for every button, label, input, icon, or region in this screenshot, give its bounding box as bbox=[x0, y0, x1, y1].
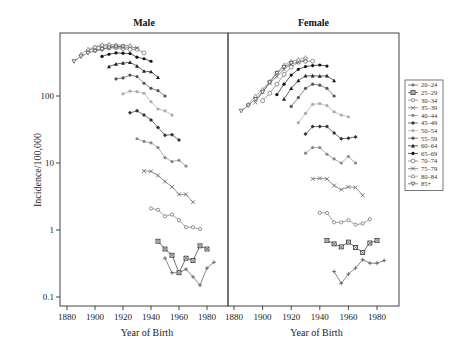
data-point bbox=[135, 90, 138, 93]
data-point bbox=[142, 82, 145, 85]
panel-title: Male bbox=[133, 17, 155, 28]
x-tick-label: 1900 bbox=[254, 312, 273, 322]
data-point bbox=[121, 76, 124, 79]
legend-label: 20–24 bbox=[421, 81, 438, 88]
x-tick-label: 1880 bbox=[225, 312, 244, 322]
panels: Male188019001920194019601980Year of Birt… bbox=[41, 17, 400, 338]
data-point bbox=[86, 51, 90, 55]
data-point bbox=[177, 159, 180, 162]
data-point bbox=[93, 45, 97, 49]
data-point bbox=[325, 238, 329, 242]
y-tick-label: 100 bbox=[41, 91, 55, 101]
series-50-54 bbox=[297, 102, 350, 124]
data-point bbox=[170, 113, 173, 116]
data-point bbox=[149, 141, 152, 144]
data-point bbox=[332, 79, 336, 83]
series-25-29 bbox=[325, 238, 379, 254]
data-point bbox=[191, 226, 194, 229]
data-point bbox=[149, 60, 152, 63]
data-point bbox=[311, 64, 314, 67]
x-tick-label: 1940 bbox=[311, 312, 330, 322]
data-point bbox=[86, 47, 90, 51]
data-point bbox=[156, 239, 160, 243]
data-point bbox=[304, 112, 307, 115]
plot-frame bbox=[228, 33, 399, 306]
data-point bbox=[163, 179, 167, 183]
legend-marker bbox=[411, 91, 415, 95]
y-tick-label: 0.1 bbox=[43, 292, 54, 302]
chart: Male188019001920194019601980Year of Birt… bbox=[0, 0, 462, 360]
series-30-34 bbox=[149, 207, 201, 231]
data-point bbox=[318, 146, 321, 149]
data-point bbox=[311, 103, 314, 106]
data-point bbox=[304, 152, 307, 155]
data-point bbox=[339, 245, 343, 249]
data-point bbox=[163, 109, 166, 112]
series-30-34 bbox=[318, 211, 371, 226]
data-point bbox=[325, 87, 328, 90]
data-point bbox=[332, 184, 336, 188]
data-point bbox=[170, 253, 174, 257]
series-40-44 bbox=[135, 137, 187, 168]
data-point bbox=[340, 113, 343, 116]
x-tick-label: 1920 bbox=[282, 312, 301, 322]
series-line bbox=[144, 171, 193, 202]
data-point bbox=[100, 43, 104, 47]
data-point bbox=[304, 87, 307, 90]
legend-label: 75–79 bbox=[421, 165, 437, 172]
data-point bbox=[361, 222, 364, 225]
series-40-44 bbox=[304, 146, 357, 165]
data-point bbox=[325, 64, 328, 67]
data-point bbox=[135, 109, 139, 113]
panel-female: Female188019001920194019601980Year of Bi… bbox=[225, 17, 399, 338]
x-tick-label: 1940 bbox=[142, 312, 161, 322]
legend-label: 40–44 bbox=[421, 112, 438, 119]
data-point bbox=[325, 104, 328, 107]
data-point bbox=[177, 271, 181, 275]
legend-label: 60–64 bbox=[421, 142, 438, 149]
series-25-29 bbox=[156, 239, 209, 275]
legend-marker bbox=[411, 129, 414, 132]
data-point bbox=[121, 52, 124, 55]
data-point bbox=[346, 240, 350, 244]
data-point bbox=[135, 137, 138, 140]
data-point bbox=[333, 110, 336, 113]
data-point bbox=[239, 109, 243, 113]
data-point bbox=[156, 89, 159, 92]
data-point bbox=[156, 146, 159, 149]
data-point bbox=[361, 251, 365, 255]
data-point bbox=[332, 270, 336, 274]
data-point bbox=[93, 49, 97, 53]
data-point bbox=[368, 261, 372, 265]
panel-title: Female bbox=[298, 17, 330, 28]
data-point bbox=[282, 83, 285, 86]
data-point bbox=[100, 55, 103, 58]
data-point bbox=[135, 56, 138, 59]
x-tick-label: 1980 bbox=[198, 312, 217, 322]
data-point bbox=[325, 153, 328, 156]
series-20-24 bbox=[332, 258, 386, 286]
y-tick-label: 1 bbox=[50, 225, 55, 235]
data-point bbox=[282, 72, 286, 76]
series-35-39 bbox=[142, 169, 195, 204]
data-point bbox=[297, 68, 300, 71]
data-point bbox=[325, 211, 328, 214]
data-point bbox=[311, 59, 315, 63]
data-point bbox=[333, 157, 336, 160]
data-point bbox=[128, 90, 131, 93]
data-point bbox=[268, 91, 272, 95]
data-point bbox=[346, 136, 350, 140]
data-point bbox=[163, 156, 166, 159]
data-point bbox=[339, 188, 343, 192]
data-point bbox=[361, 193, 365, 197]
legend-marker bbox=[411, 152, 414, 155]
legend-marker bbox=[411, 114, 414, 117]
data-point bbox=[135, 64, 139, 68]
data-point bbox=[198, 228, 201, 231]
data-point bbox=[297, 121, 300, 124]
data-point bbox=[296, 58, 300, 62]
data-point bbox=[347, 219, 350, 222]
legend-label: 50–54 bbox=[421, 127, 438, 134]
data-point bbox=[149, 87, 152, 90]
data-point bbox=[261, 99, 265, 103]
